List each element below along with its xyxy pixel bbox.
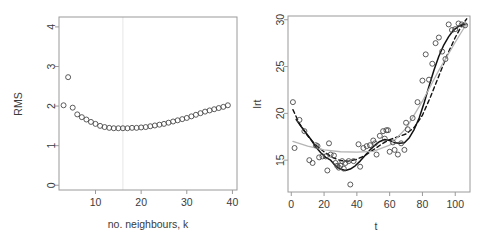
data-point [310, 160, 315, 165]
x-tick-label: 60 [384, 198, 396, 210]
y-tick-label: 20 [274, 107, 286, 119]
right-y-axis-title: lrt [251, 100, 263, 109]
right-plot-svg: 02040608010015202530 t lrt [243, 0, 485, 243]
data-point [420, 78, 425, 83]
data-point [356, 142, 361, 147]
x-tick-label: 0 [288, 198, 294, 210]
y-tick-label: 3 [45, 63, 57, 69]
data-point [436, 35, 441, 40]
data-point [292, 146, 297, 151]
data-point [433, 41, 438, 46]
data-point [358, 164, 363, 169]
y-tick-label: 1 [45, 143, 57, 149]
data-point [395, 152, 400, 157]
data-point [317, 155, 322, 160]
data-point [307, 158, 312, 163]
data-point [415, 100, 420, 105]
x-tick-label: 20 [135, 196, 147, 208]
data-point [66, 75, 71, 80]
data-point [382, 136, 387, 141]
left-x-axis-title: no. neighbours, k [108, 218, 189, 230]
data-point [374, 152, 379, 157]
data-point [367, 143, 372, 148]
data-point [381, 129, 386, 134]
x-tick-label: 20 [318, 198, 330, 210]
data-point [61, 103, 66, 108]
left-y-axis-title: RMS [12, 92, 24, 115]
y-tick-label: 25 [274, 61, 286, 73]
data-point [326, 141, 331, 146]
x-tick-label: 40 [351, 198, 363, 210]
panel-lrt-vs-t: 02040608010015202530 t lrt [243, 0, 485, 243]
x-tick-label: 40 [227, 196, 239, 208]
data-point [377, 133, 382, 138]
right-x-axis-title: t [375, 220, 378, 232]
data-point [404, 120, 409, 125]
data-point [225, 103, 230, 108]
y-tick-label: 2 [45, 103, 57, 109]
plot-frame [288, 16, 470, 192]
data-point [392, 147, 397, 152]
data-point [402, 147, 407, 152]
data-point [75, 112, 80, 117]
data-point [387, 149, 392, 154]
data-point [70, 105, 75, 110]
data-point [430, 61, 435, 66]
x-tick-label: 80 [417, 198, 429, 210]
y-tick-label: 15 [274, 154, 286, 166]
plot-frame [59, 17, 237, 190]
y-tick-label: 30 [274, 14, 286, 26]
data-point [290, 100, 295, 105]
left-plot-svg: 1020304001234 no. neighbours, k RMS [0, 0, 243, 243]
data-point [348, 182, 353, 187]
data-point [446, 22, 451, 27]
curve-dashed-smoother [293, 19, 467, 161]
x-tick-label: 30 [181, 196, 193, 208]
x-tick-label: 10 [90, 196, 102, 208]
data-point [456, 21, 461, 26]
data-point [331, 153, 336, 158]
panel-rms-vs-k: 1020304001234 no. neighbours, k RMS [0, 0, 243, 243]
data-point [325, 168, 330, 173]
y-tick-label: 4 [45, 24, 57, 30]
data-point [423, 52, 428, 57]
x-tick-label: 100 [446, 198, 464, 210]
y-tick-label: 0 [45, 182, 57, 188]
figure-root: 1020304001234 no. neighbours, k RMS 0204… [0, 0, 485, 243]
